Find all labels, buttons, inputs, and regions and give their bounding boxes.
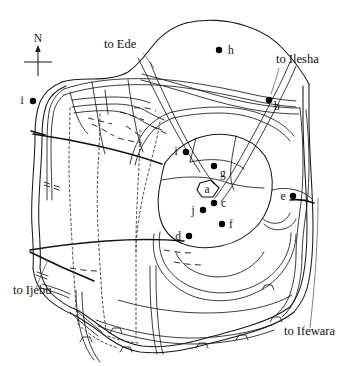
- dashed-segment-11: [174, 262, 204, 265]
- dashed-segment-8: [152, 126, 170, 135]
- route-label-ifewara: to Ifewara: [284, 324, 335, 338]
- outer-ring-west-b: [51, 95, 64, 200]
- main-road-ijebu: [30, 240, 184, 251]
- site-label-h: h: [228, 44, 234, 56]
- east-lower-a: [276, 254, 296, 315]
- southern-loop-notch: [262, 213, 290, 223]
- site-dot-i-west: [30, 98, 36, 104]
- outer-boundary-west-inner: [39, 86, 66, 268]
- sw-lower-road-b: [70, 312, 98, 336]
- southern-loop-outer-b: [153, 234, 296, 301]
- route-label-ede: to Ede: [104, 37, 137, 51]
- leader-line-ede: [143, 53, 154, 68]
- outer-boundary-group: [32, 20, 313, 353]
- eastern-roads-group: [272, 108, 312, 317]
- site-label-c: c: [221, 197, 226, 209]
- outer-boundary-southeast-inner: [191, 307, 290, 342]
- south-mid-road-a: [118, 295, 292, 313]
- south-central-panel-group: [76, 290, 100, 362]
- site-dot-d: [186, 233, 192, 239]
- route-label-ijebu: to Ijebu: [13, 283, 52, 297]
- site-label-e: e: [280, 190, 285, 202]
- outer-boundary-northwest: [62, 23, 186, 82]
- site-dot-h: [216, 47, 222, 53]
- east-vertical-a: [296, 108, 303, 254]
- leader-line-ilesha: [271, 68, 279, 94]
- site-label-i-west: i: [20, 94, 23, 106]
- dashed-segment-3: [120, 112, 144, 120]
- south-outer-road-a: [96, 320, 274, 338]
- main-road-east-stub: [290, 200, 314, 203]
- dashed-segment-2: [92, 124, 114, 136]
- radial-road-ilesha-branch: [221, 66, 296, 202]
- north-arrow-icon: N: [24, 32, 52, 76]
- nw-field-line-4: [72, 104, 164, 120]
- site-dot-f: [219, 221, 225, 227]
- dotted-track-3: [136, 130, 140, 338]
- compass-label-north: N: [34, 32, 43, 44]
- nw-field-line-3: [72, 97, 150, 103]
- site-labels-group: i h b i g a c j f d e: [20, 44, 285, 242]
- southern-loop-group: [153, 213, 296, 301]
- main-road-west-to-east: [33, 134, 162, 164]
- map-canvas: i h b i g a c j f d e to Ede to Ilesha t…: [0, 0, 354, 366]
- site-label-b: b: [274, 100, 280, 112]
- southern-loop-notch-b: [264, 219, 296, 230]
- northwest-field-lines-group: [70, 90, 164, 134]
- sw-notch-1: [80, 337, 92, 342]
- dashed-segment-10: [164, 250, 194, 253]
- site-dot-c: [211, 200, 217, 206]
- south-panel-b: [82, 292, 100, 362]
- map-figure: i h b i g a c j f d e to Ede to Ilesha t…: [0, 0, 354, 366]
- dashed-segment-12: [70, 268, 100, 271]
- site-label-f: f: [229, 218, 233, 230]
- site-label-i-center: i: [174, 145, 177, 157]
- site-dot-e: [290, 193, 296, 199]
- site-label-j: j: [190, 204, 194, 217]
- radial-road-northwest: [92, 82, 105, 154]
- site-dots-group: [30, 47, 296, 239]
- site-label-d: d: [175, 230, 181, 242]
- core-cell-line-3: [162, 177, 228, 183]
- core-cell-line-5: [190, 160, 244, 169]
- site-dot-b: [266, 97, 272, 103]
- site-dot-i-center: [183, 149, 189, 155]
- site-dot-g: [211, 163, 217, 169]
- radial-roads-group: [92, 58, 296, 202]
- inner-ring-south: [181, 225, 258, 248]
- route-leader-lines-group: [36, 53, 318, 328]
- core-cell-line-1: [190, 138, 196, 162]
- middle-ring-north-b: [173, 113, 290, 141]
- nw-field-line-5: [74, 111, 162, 130]
- site-dot-j: [200, 207, 206, 213]
- site-label-a: a: [204, 183, 209, 195]
- inner-ring-east: [258, 156, 272, 225]
- middle-ring-west-b: [135, 118, 173, 165]
- site-label-g: g: [220, 167, 226, 180]
- route-label-ilesha: to Ilesha: [276, 52, 319, 66]
- dashed-paths-group: [44, 108, 204, 271]
